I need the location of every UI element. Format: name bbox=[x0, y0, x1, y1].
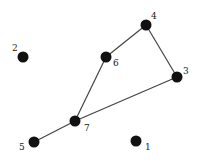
edge-4-6 bbox=[106, 25, 146, 57]
edges-layer bbox=[34, 25, 177, 142]
edge-7-5 bbox=[34, 121, 75, 142]
node-label-1: 1 bbox=[145, 142, 151, 152]
node-7 bbox=[70, 116, 81, 127]
nodes-layer bbox=[18, 20, 183, 148]
node-1 bbox=[131, 136, 142, 147]
graph-diagram: 1234567 bbox=[0, 0, 197, 165]
edge-6-7 bbox=[75, 57, 106, 121]
node-label-7: 7 bbox=[84, 123, 90, 133]
labels-layer: 1234567 bbox=[12, 11, 189, 152]
node-4 bbox=[141, 20, 152, 31]
node-label-3: 3 bbox=[183, 66, 189, 76]
node-3 bbox=[172, 72, 183, 83]
node-label-6: 6 bbox=[113, 58, 119, 68]
edge-4-3 bbox=[146, 25, 177, 77]
edge-3-7 bbox=[75, 77, 177, 121]
node-5 bbox=[29, 137, 40, 148]
node-2 bbox=[18, 52, 29, 63]
node-label-5: 5 bbox=[19, 142, 25, 152]
node-label-2: 2 bbox=[12, 43, 18, 53]
node-6 bbox=[101, 52, 112, 63]
node-label-4: 4 bbox=[151, 11, 157, 21]
